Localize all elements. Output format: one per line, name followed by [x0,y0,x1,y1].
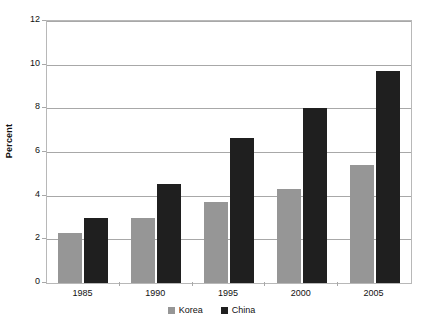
bar-china-1990 [157,184,181,283]
y-tick-label: 2 [18,232,40,242]
x-tick-separator [337,282,338,286]
bar-korea-1990 [131,218,155,284]
legend: KoreaChina [0,305,423,315]
bar-korea-2000 [277,189,301,283]
bar-chart: Percent 024681012 19851990199520002005 K… [0,0,423,328]
gridline [47,108,411,109]
gridline [47,65,411,66]
x-tick-separator [119,282,120,286]
x-tick-label: 1990 [119,288,192,298]
plot-area [46,20,412,284]
legend-item-korea[interactable]: Korea [168,305,203,315]
y-tick-label: 10 [18,58,40,68]
x-tick-label: 2000 [264,288,337,298]
gridline [47,152,411,153]
legend-swatch-icon [221,307,228,314]
x-tick-separator [264,282,265,286]
bar-china-2005 [376,71,400,283]
bar-korea-1995 [204,202,228,283]
x-tick-label: 1985 [46,288,119,298]
y-tick-label: 6 [18,145,40,155]
bar-china-2000 [303,108,327,283]
y-tick-label: 0 [18,276,40,286]
legend-item-china[interactable]: China [221,305,256,315]
y-tick-label: 4 [18,189,40,199]
y-tick-label: 12 [18,14,40,24]
legend-swatch-icon [168,307,175,314]
bar-china-1995 [230,138,254,283]
x-tick-label: 1995 [192,288,265,298]
x-tick-separator [192,282,193,286]
gridline [47,21,411,22]
x-tick-label: 2005 [337,288,410,298]
y-axis-title: Percent [0,0,18,282]
y-tick-label: 8 [18,101,40,111]
y-axis-title-text: Percent [4,124,14,158]
legend-label: Korea [179,305,203,315]
bar-china-1985 [84,218,108,284]
bar-korea-2005 [350,165,374,283]
legend-label: China [232,305,256,315]
bar-korea-1985 [58,233,82,283]
